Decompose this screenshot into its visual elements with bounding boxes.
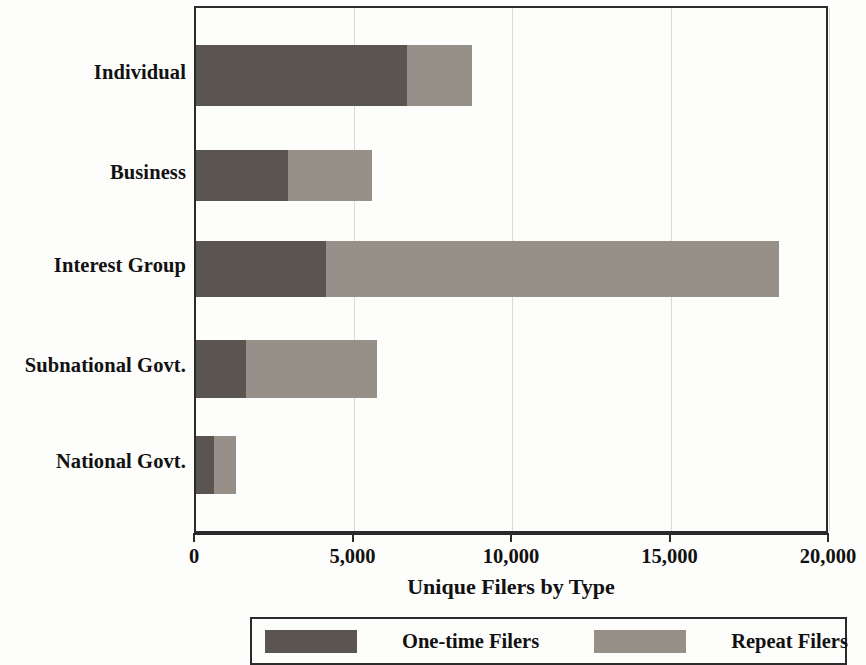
bar-segment-one-time-subnational-govt: [196, 340, 246, 398]
legend-swatch-repeat-filers: [594, 630, 686, 653]
x-tick-15000: [669, 533, 671, 542]
bar-business: [196, 150, 372, 201]
category-axis-labels: Individual Business Interest Group Subna…: [0, 6, 186, 533]
x-tick-5000: [352, 533, 354, 542]
x-axis-title: Unique Filers by Type: [194, 574, 828, 600]
bar-national-govt: [196, 436, 236, 494]
bar-segment-repeat-subnational-govt: [246, 340, 376, 398]
category-label-business: Business: [0, 161, 186, 184]
legend-label-repeat-filers: Repeat Filers: [731, 630, 848, 653]
bar-segment-repeat-interest-group: [326, 241, 779, 297]
x-tick-label-5000: 5,000: [329, 545, 375, 568]
bar-segment-one-time-interest-group: [196, 241, 326, 297]
x-tick-label-10000: 10,000: [483, 545, 539, 568]
bar-individual: [196, 45, 472, 106]
category-label-individual: Individual: [0, 61, 186, 84]
plot-area: [194, 6, 828, 533]
bar-subnational-govt: [196, 340, 377, 398]
chart-legend: One-time Filers Repeat Filers: [250, 617, 847, 665]
legend-swatch-one-time-filers: [265, 630, 357, 653]
bar-segment-repeat-business: [288, 150, 372, 201]
bar-chart-figure: Individual Business Interest Group Subna…: [0, 0, 866, 665]
x-tick-10000: [510, 533, 512, 542]
bar-segment-one-time-business: [196, 150, 288, 201]
x-tick-label-15000: 15,000: [641, 545, 697, 568]
bar-segment-repeat-individual: [407, 45, 472, 106]
x-tick-label-20000: 20,000: [800, 545, 856, 568]
x-tick-label-0: 0: [189, 545, 199, 568]
bar-segment-one-time-individual: [196, 45, 407, 106]
bar-interest-group: [196, 241, 779, 297]
category-label-interest-group: Interest Group: [0, 254, 186, 277]
gridline-20000: [829, 8, 830, 531]
bar-segment-repeat-national-govt: [214, 436, 236, 494]
legend-entry-repeat-filers: Repeat Filers: [594, 619, 848, 663]
legend-label-one-time-filers: One-time Filers: [402, 630, 539, 653]
category-label-national-govt: National Govt.: [0, 450, 186, 473]
x-tick-20000: [827, 533, 829, 542]
bar-segment-one-time-national-govt: [196, 436, 214, 494]
legend-entry-one-time-filers: One-time Filers: [265, 619, 539, 663]
category-label-subnational-govt: Subnational Govt.: [0, 354, 186, 377]
x-tick-0: [193, 533, 195, 542]
